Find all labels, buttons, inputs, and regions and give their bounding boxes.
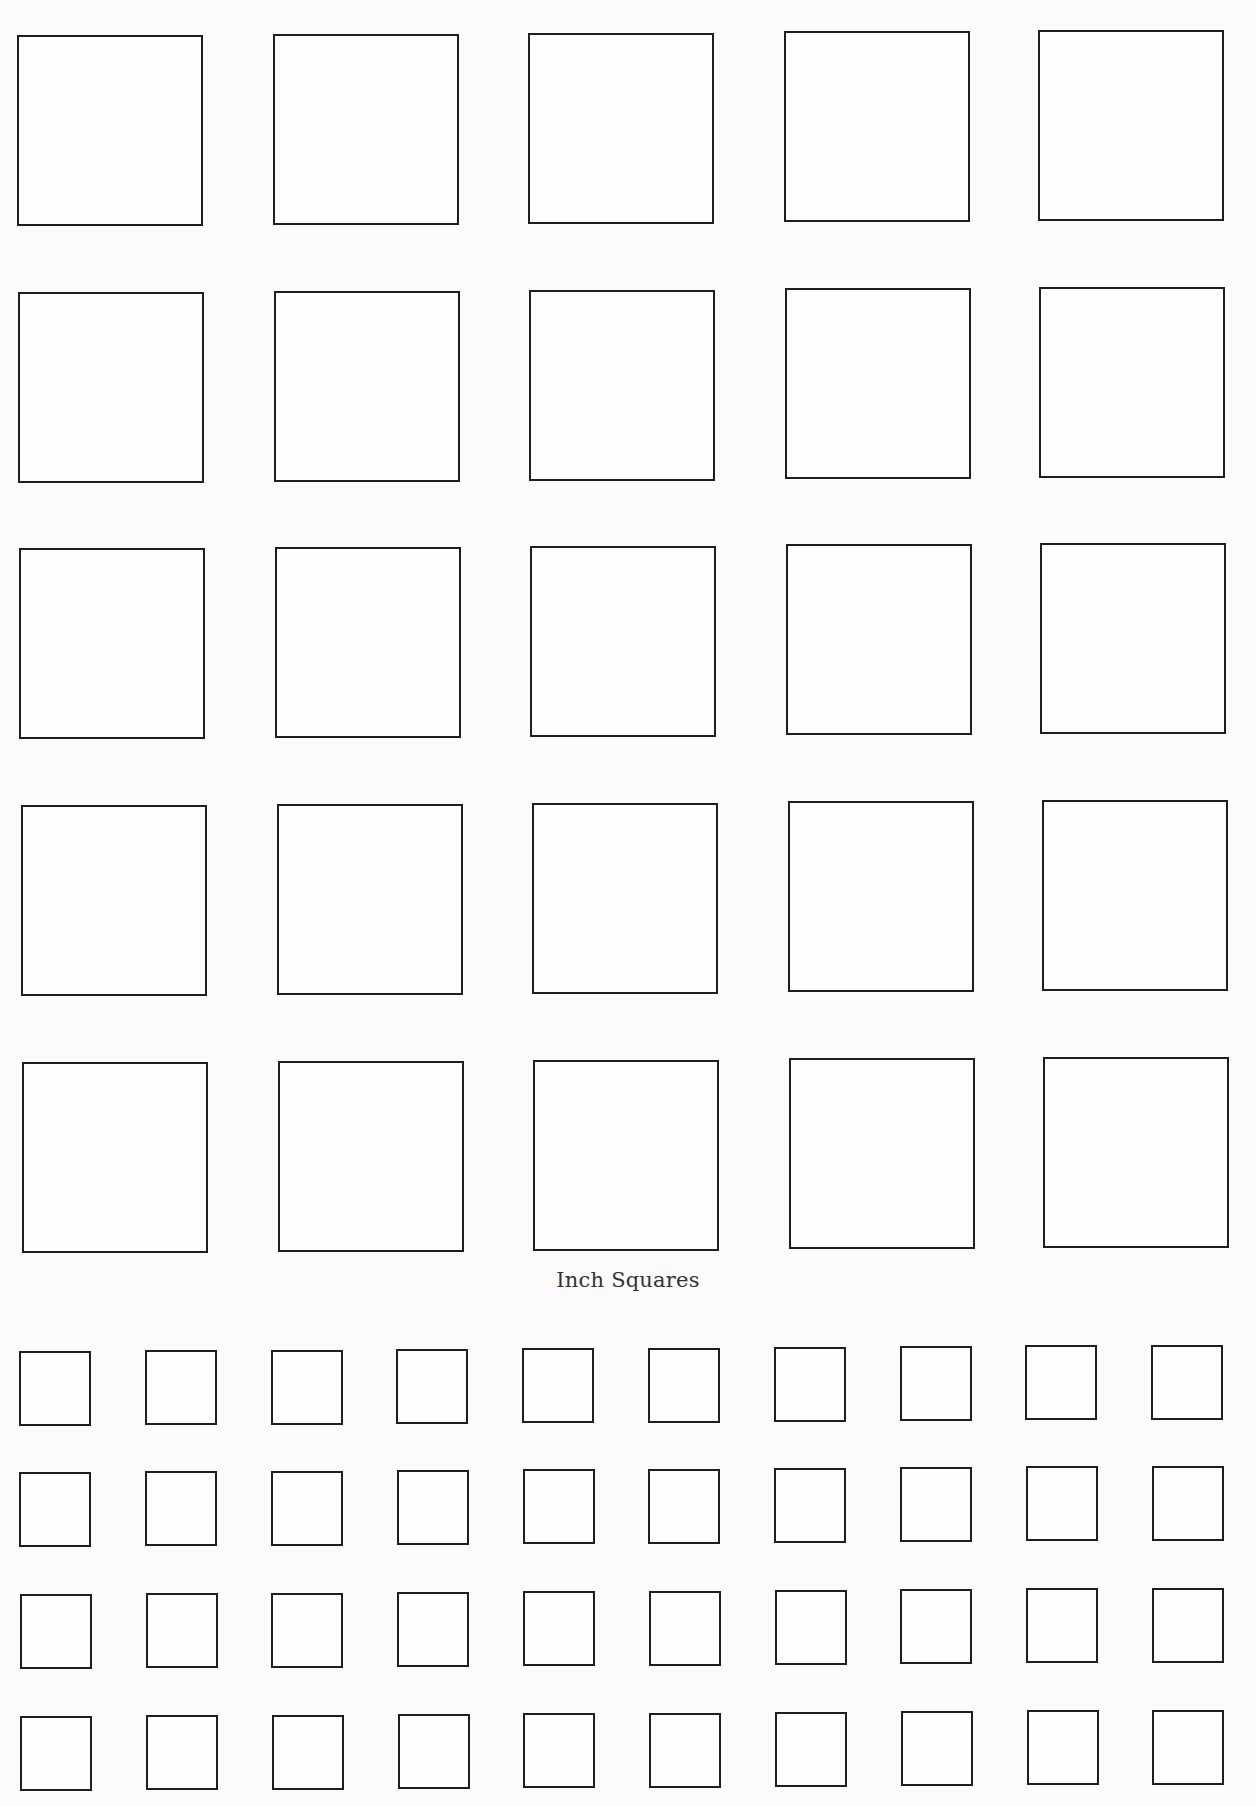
large-square xyxy=(1040,543,1226,734)
inch-square xyxy=(900,1589,972,1664)
inch-square xyxy=(20,1716,92,1791)
large-square xyxy=(277,804,463,995)
large-square xyxy=(17,35,203,226)
inch-square xyxy=(19,1472,91,1547)
inch-square xyxy=(523,1713,595,1788)
inch-square xyxy=(271,1593,343,1668)
large-square xyxy=(274,291,460,482)
inch-square xyxy=(775,1712,847,1787)
large-square xyxy=(1038,30,1224,221)
large-square xyxy=(19,548,205,739)
inch-square xyxy=(523,1469,595,1544)
large-square xyxy=(788,801,974,992)
large-square xyxy=(1043,1057,1229,1248)
large-square xyxy=(22,1062,208,1253)
large-square xyxy=(786,544,972,735)
large-square xyxy=(275,547,461,738)
inch-square xyxy=(271,1350,343,1425)
large-square xyxy=(528,33,714,224)
large-square xyxy=(1042,800,1228,991)
inch-square xyxy=(775,1590,847,1665)
inch-square xyxy=(146,1715,218,1790)
large-square xyxy=(1039,287,1225,478)
inch-square xyxy=(900,1467,972,1542)
inch-square xyxy=(648,1348,720,1423)
inch-square xyxy=(774,1347,846,1422)
inch-square xyxy=(900,1346,972,1421)
inch-square xyxy=(145,1350,217,1425)
inch-square xyxy=(397,1592,469,1667)
large-square xyxy=(530,546,716,737)
inch-square xyxy=(649,1713,721,1788)
large-square xyxy=(532,803,718,994)
large-square xyxy=(21,805,207,996)
inch-square xyxy=(1151,1345,1223,1420)
inch-square xyxy=(1152,1710,1224,1785)
inch-square xyxy=(272,1715,344,1790)
large-square xyxy=(278,1061,464,1252)
large-square xyxy=(533,1060,719,1251)
inch-square xyxy=(522,1348,594,1423)
inch-square xyxy=(271,1471,343,1546)
inch-square xyxy=(1027,1710,1099,1785)
inch-square xyxy=(523,1591,595,1666)
large-square xyxy=(785,288,971,479)
large-square xyxy=(529,290,715,481)
inch-square xyxy=(398,1714,470,1789)
inch-square xyxy=(145,1471,217,1546)
inch-square xyxy=(1026,1588,1098,1663)
inch-square xyxy=(1026,1466,1098,1541)
inch-square xyxy=(146,1593,218,1668)
large-square xyxy=(789,1058,975,1249)
large-square xyxy=(18,292,204,483)
inch-square xyxy=(901,1711,973,1786)
large-square xyxy=(273,34,459,225)
inch-square xyxy=(774,1468,846,1543)
inch-square xyxy=(648,1469,720,1544)
inch-square xyxy=(1152,1466,1224,1541)
large-square xyxy=(784,31,970,222)
inch-square xyxy=(1152,1588,1224,1663)
inch-square xyxy=(396,1349,468,1424)
inch-square xyxy=(397,1470,469,1545)
inch-square xyxy=(19,1351,91,1426)
inch-square xyxy=(649,1591,721,1666)
inch-squares-label: Inch Squares xyxy=(0,1268,1256,1292)
inch-square xyxy=(1025,1345,1097,1420)
inch-square xyxy=(20,1594,92,1669)
